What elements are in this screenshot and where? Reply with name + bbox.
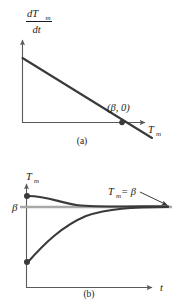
panel-b-caption: (b) xyxy=(83,289,94,300)
panel-a-caption: (a) xyxy=(77,136,88,147)
panel-b-beta-label: β xyxy=(11,201,18,213)
panel-a-y-label-numerator-subscript: m xyxy=(46,14,51,22)
panel-b-y-label-subscript: m xyxy=(34,177,39,185)
panel-a-x-label-subscript: m xyxy=(156,130,161,138)
panel-b-initial-marker-above xyxy=(24,193,30,199)
panel-a-y-label-numerator: dT xyxy=(27,8,39,19)
panel-a-root-marker xyxy=(119,120,125,126)
figure-svg: dT m dt T m (β, 0) (a) xyxy=(0,0,182,307)
panel-b-asymptote-label-rhs: = β xyxy=(121,186,137,197)
panel-a-y-label-denominator: dt xyxy=(33,24,42,35)
figure-container: dT m dt T m (β, 0) (a) xyxy=(0,0,182,307)
panel-a-root-annotation: (β, 0) xyxy=(107,102,130,114)
panel-b-initial-marker-below xyxy=(24,259,30,265)
